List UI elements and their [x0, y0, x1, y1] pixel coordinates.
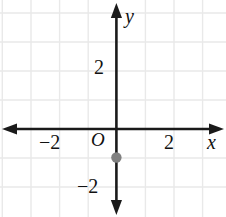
x-axis	[2, 123, 224, 134]
plotted-points	[111, 152, 121, 162]
vertical-grid-lines	[2, 0, 202, 217]
y-axis-label: y	[125, 6, 134, 26]
y-axis-arrow-down	[111, 200, 122, 215]
x-axis-arrow-left	[2, 123, 17, 134]
y-axis	[111, 3, 122, 215]
origin-label: O	[91, 130, 105, 149]
y-tick-label-pos-2: 2	[94, 57, 104, 77]
x-axis-label: x	[207, 132, 216, 152]
y-tick-label-neg-2: −2	[77, 176, 98, 196]
x-tick-label-neg-2: −2	[39, 132, 60, 152]
coordinate-plane-svg	[0, 0, 226, 217]
data-point	[111, 152, 121, 162]
coordinate-plane-figure: y x O −2 2 2 −2	[0, 0, 226, 217]
x-tick-label-pos-2: 2	[164, 132, 174, 152]
y-axis-arrow-up	[111, 3, 122, 18]
